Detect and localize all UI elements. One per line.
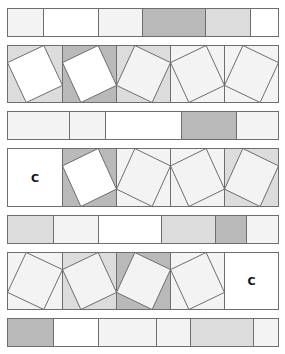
strip-segment <box>143 9 206 37</box>
strip-segment <box>8 112 70 140</box>
strip-segment <box>106 112 182 140</box>
strip-segment <box>182 112 237 140</box>
block-label: C <box>247 275 255 288</box>
quilt-diagram: CC <box>0 0 285 354</box>
strip-segment <box>8 216 54 244</box>
strip-segment <box>99 9 143 37</box>
plain-block: C <box>225 253 279 310</box>
plain-block: C <box>8 149 63 207</box>
strip-row <box>8 9 279 37</box>
strip-segment <box>8 319 54 347</box>
strip-segment <box>216 216 247 244</box>
strip-segment <box>54 216 99 244</box>
strip-segment <box>247 216 279 244</box>
strip-row <box>8 319 279 347</box>
tilted-square-block <box>171 253 225 310</box>
strip-segment <box>99 319 157 347</box>
strip-segment <box>191 319 254 347</box>
block-row: C <box>8 149 279 207</box>
strip-segment <box>99 216 162 244</box>
strip-segment <box>44 9 99 37</box>
tilted-square-block <box>117 46 171 103</box>
tilted-square-block <box>63 46 117 103</box>
strip-row <box>8 112 279 140</box>
strip-segment <box>8 9 44 37</box>
tilted-square-block <box>225 149 279 207</box>
strip-segment <box>157 319 191 347</box>
strip-segment <box>254 319 279 347</box>
tilted-square-block <box>8 253 63 310</box>
tilted-square-block <box>171 149 225 207</box>
block-row <box>8 46 279 103</box>
block-label: C <box>31 172 39 185</box>
tilted-square-block <box>225 46 279 103</box>
strip-segment <box>162 216 216 244</box>
tilted-square-block <box>117 253 171 310</box>
strip-segment <box>251 9 279 37</box>
tilted-square-block <box>63 253 117 310</box>
tilted-square-block <box>171 46 225 103</box>
tilted-square-block <box>63 149 117 207</box>
strip-segment <box>54 319 99 347</box>
strip-segment <box>206 9 251 37</box>
block-row: C <box>8 253 279 310</box>
strip-segment <box>237 112 279 140</box>
strip-row <box>8 216 279 244</box>
tilted-square-block <box>8 46 63 103</box>
tilted-square-block <box>117 149 171 207</box>
strip-segment <box>70 112 106 140</box>
